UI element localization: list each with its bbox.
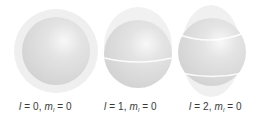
equals: =: [139, 101, 151, 112]
orbital-label-l2: l = 2, ml = 0: [189, 101, 242, 113]
symbol-m: m: [129, 101, 137, 112]
equals: =: [224, 101, 236, 112]
ml-value: 0: [66, 101, 72, 112]
sphere: [22, 17, 90, 85]
equals: =: [54, 101, 66, 112]
spherical-harmonics-figure: l = 0, ml = 0 l = 1, ml = 0 l = 2, ml = …: [0, 0, 269, 126]
symbol-m: m: [44, 101, 52, 112]
equals: =: [106, 101, 118, 112]
ml-value: 0: [151, 101, 157, 112]
equals: =: [191, 101, 203, 112]
ml-value: 0: [236, 101, 242, 112]
symbol-m: m: [214, 101, 222, 112]
orbital-l1-sphere: [104, 7, 172, 88]
orbital-label-l1: l = 1, ml = 0: [104, 101, 157, 113]
orbital-l2-sphere: [178, 5, 246, 97]
orbital-label-l0: l = 0, ml = 0: [19, 101, 72, 113]
sphere: [104, 20, 172, 88]
orbital-l0-sphere: [14, 9, 98, 93]
equals: =: [21, 101, 33, 112]
